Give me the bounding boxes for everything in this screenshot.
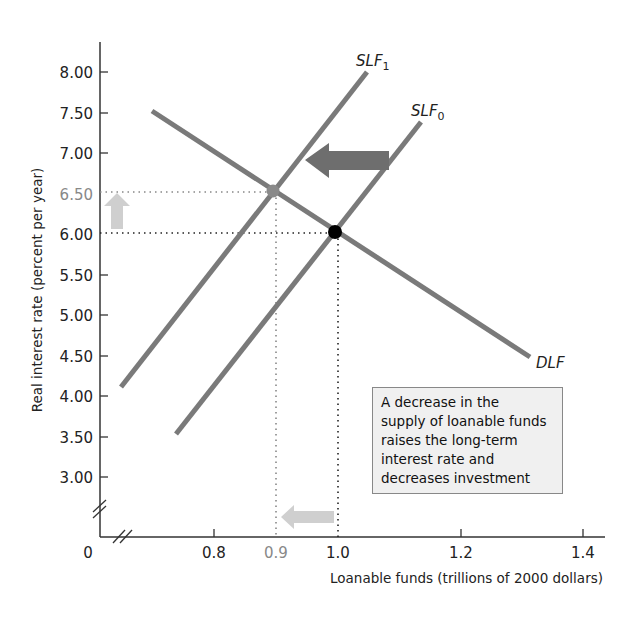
- svg-text:6.00: 6.00: [60, 226, 93, 244]
- svg-text:0.9: 0.9: [264, 544, 288, 562]
- explanation-note: A decrease in the supply of loanable fun…: [372, 387, 563, 494]
- supply-shift-arrow-icon: [305, 143, 389, 178]
- svg-text:7.00: 7.00: [60, 145, 93, 163]
- svg-text:6.50: 6.50: [60, 186, 93, 204]
- svg-text:1.4: 1.4: [571, 544, 595, 562]
- quantity-fall-arrow-icon: [281, 505, 334, 529]
- svg-text:5.50: 5.50: [60, 267, 93, 285]
- svg-text:3.50: 3.50: [60, 429, 93, 447]
- x-ticks: [214, 529, 583, 537]
- note-line: supply of loanable funds: [381, 412, 556, 431]
- note-line: decreases investment: [381, 469, 556, 488]
- svg-text:7.50: 7.50: [60, 105, 93, 123]
- svg-text:3.00: 3.00: [60, 469, 93, 487]
- new-equilibrium-point: [267, 185, 280, 198]
- slf1-label: SLF1: [356, 52, 390, 73]
- x-axis-title: Loanable funds (trillions of 2000 dollar…: [330, 570, 603, 586]
- dlf-label: DLF: [536, 354, 565, 372]
- y-axis-title: Real interest rate (percent per year): [29, 168, 45, 413]
- rate-rise-arrow-icon: [104, 193, 130, 229]
- note-line: A decrease in the: [381, 393, 556, 412]
- loanable-funds-chart: 8.00 7.50 7.00 6.50 6.00 5.50 5.00 4.50 …: [0, 0, 627, 622]
- svg-text:8.00: 8.00: [60, 64, 93, 82]
- svg-text:5.00: 5.00: [60, 307, 93, 325]
- y-ticks: [100, 72, 108, 477]
- svg-text:0: 0: [83, 544, 93, 562]
- svg-text:4.50: 4.50: [60, 348, 93, 366]
- slf0-label: SLF0: [411, 102, 445, 123]
- svg-text:1.0: 1.0: [326, 544, 350, 562]
- svg-text:1.2: 1.2: [449, 544, 473, 562]
- svg-text:4.00: 4.00: [60, 388, 93, 406]
- note-line: interest rate and: [381, 450, 556, 469]
- svg-text:0.8: 0.8: [202, 544, 226, 562]
- y-tick-labels: 8.00 7.50 7.00 6.50 6.00 5.50 5.00 4.50 …: [60, 64, 93, 487]
- x-tick-labels: 0 0.8 0.9 1.0 1.2 1.4: [83, 544, 595, 562]
- note-line: raises the long-term: [381, 431, 556, 450]
- initial-equilibrium-point: [328, 225, 342, 239]
